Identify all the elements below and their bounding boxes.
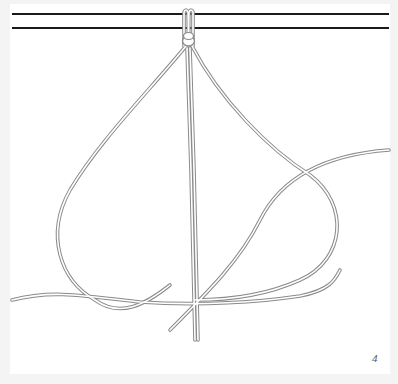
step-number: 4	[372, 352, 378, 364]
lark-head-knot	[183, 33, 195, 47]
knot-diagram	[0, 0, 398, 384]
hanging-bars	[12, 14, 389, 28]
cord-strands	[12, 10, 389, 340]
